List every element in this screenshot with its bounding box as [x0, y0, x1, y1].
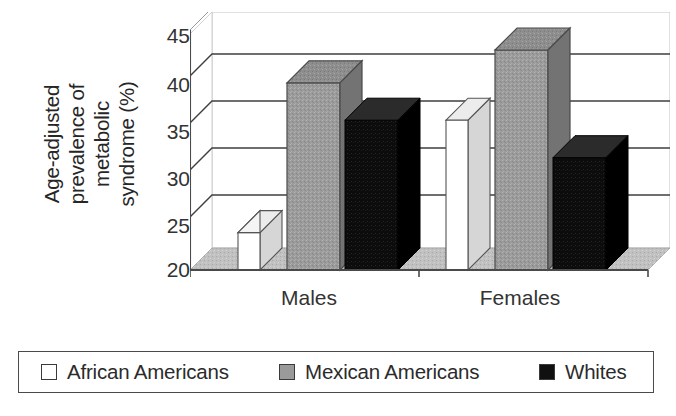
- y-axis-title-line-3: metabolic: [89, 13, 114, 275]
- chart-plot-area: [190, 12, 670, 282]
- y-axis-title-line-1: Age-adjusted: [39, 13, 64, 275]
- y-tick-label-20: 20: [148, 258, 190, 282]
- y-axis-title: Age-adjusted prevalence of metabolic syn…: [14, 6, 164, 281]
- y-axis-title-text: Age-adjusted prevalence of metabolic syn…: [39, 13, 139, 275]
- x-category-label-males: Males: [224, 286, 394, 310]
- bar-females-whites: [553, 136, 628, 270]
- legend-label-african-americans: African Americans: [67, 360, 229, 384]
- y-tick-label-30: 30: [148, 167, 190, 191]
- chart-legend: African Americans Mexican Americans Whit…: [18, 351, 654, 393]
- x-category-label-females: Females: [430, 286, 610, 310]
- legend-label-mexican-americans: Mexican Americans: [305, 360, 479, 384]
- legend-item-whites[interactable]: Whites: [539, 352, 626, 392]
- gray-swatch-icon: [279, 364, 295, 380]
- white-swatch-icon: [41, 364, 57, 380]
- legend-item-mexican-americans[interactable]: Mexican Americans: [279, 352, 479, 392]
- y-tick-label-25: 25: [148, 214, 190, 238]
- y-tick-label-45: 45: [148, 24, 190, 48]
- y-axis-title-line-2: prevalence of: [64, 13, 89, 275]
- y-tick-label-35: 35: [148, 120, 190, 144]
- bar-chart-svg: [190, 12, 670, 284]
- bar-males-whites: [345, 98, 420, 270]
- y-axis-title-line-4: syndrome (%): [114, 13, 139, 275]
- y-tick-label-40: 40: [148, 73, 190, 97]
- black-swatch-icon: [539, 364, 555, 380]
- legend-item-african-americans[interactable]: African Americans: [41, 352, 229, 392]
- bar-females-african-americans: [446, 98, 490, 270]
- legend-items: African Americans Mexican Americans Whit…: [19, 352, 653, 392]
- legend-label-whites: Whites: [565, 360, 626, 384]
